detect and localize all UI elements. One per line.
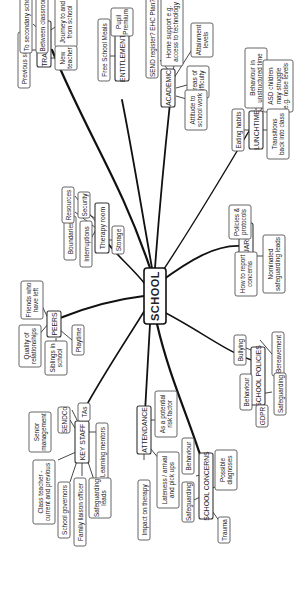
node-playtime: Playtime (72, 325, 84, 355)
node-nominated-leads: Nominatedsafeguarding leads (263, 235, 285, 293)
node-label: Behaviour (185, 441, 192, 471)
node-label: Boundaries (67, 222, 74, 254)
node-label: ASD children (267, 67, 274, 105)
node-label: unstructured time (256, 53, 263, 103)
node-label: Attitude to (189, 95, 196, 124)
node-potential-risk: As a potentialrisk factor (155, 391, 177, 437)
node-label: ACADEMIC (165, 70, 172, 106)
node-resources: Resources (62, 187, 74, 223)
node-trauma: Trauma (218, 517, 230, 543)
node-attainment: Attainmentlevels (191, 23, 213, 57)
node-storage: Storage (112, 226, 124, 254)
node-siblings: Siblings inschool (45, 341, 67, 375)
node-security: Security (78, 192, 90, 218)
node-home-support: Home support e.g.access to technology (161, 0, 183, 66)
node-label: SENDCo (61, 407, 68, 433)
node-label: Trauma (221, 519, 228, 541)
node-label: Behaviour in (249, 60, 256, 96)
node-asd-children: ASD childrenmay strugglee.g. noise level… (263, 60, 293, 112)
node-label: back into class (278, 113, 285, 155)
node-gdpr: GDPR (256, 405, 268, 427)
node-sendco: SENDCo (58, 407, 70, 433)
node-safeguarding-concern: Safeguarding (182, 482, 194, 522)
node-policies-protocols: Policies &protocols (229, 205, 251, 239)
node-bullying: Bullying (234, 335, 246, 365)
node-behaviour-policy: Behaviour (240, 374, 252, 410)
node-label: Nominated (267, 248, 274, 279)
node-label: Friends who (25, 282, 32, 317)
node-label: School governors (61, 485, 69, 535)
node-label: SCHOOL (149, 271, 161, 321)
node-label: Behaviour (243, 377, 250, 407)
node-label: PEERS (51, 312, 58, 336)
node-label: diagnoses (226, 455, 234, 484)
node-label: To secondary school (23, 0, 31, 51)
node-attitude: Attitude toschool work (185, 90, 207, 130)
node-label: ENTITLEMENTS (119, 30, 126, 82)
node-label: have left (32, 288, 39, 312)
node-label: Class teacher - (37, 471, 44, 514)
node-impact-therapy: Impact on therapy (138, 480, 150, 540)
node-school-concerns: SCHOOL CONCERNS (199, 451, 213, 521)
node-academic: ACADEMIC (161, 69, 175, 107)
node-label: Between classrooms (39, 0, 46, 51)
node-interruptions: Interruptions (80, 221, 92, 267)
node-transitions-back: Transitionsback into class (267, 109, 289, 159)
node-therapy-room: Therapy room (95, 203, 109, 253)
node-label: Learning mentors (99, 427, 107, 477)
node-to-secondary: To secondary school (20, 0, 32, 53)
node-label: Lateness / arrival (161, 456, 168, 505)
node-label: safeguarding leads (274, 237, 282, 291)
node-label: Eating habits (235, 112, 243, 149)
node-label: SCHOOL POLICIES (255, 345, 262, 407)
node-label: risk factor (166, 399, 173, 428)
node-label: Transitions (271, 118, 278, 149)
node-label: concerns (246, 261, 253, 287)
node-label: e.g. noise levels (282, 63, 290, 109)
node-label: Family liaison officer (77, 482, 85, 541)
node-how-to-report: How to reportconcerns (235, 252, 257, 296)
node-family-liaison: Family liaison officer (74, 478, 86, 546)
node-label: levels (202, 32, 209, 48)
node-label: school work (196, 92, 203, 127)
node-label: Possible (219, 457, 226, 482)
node-entitlements: ENTITLEMENTS (115, 30, 129, 82)
node-label: Free School Meals (101, 23, 108, 76)
node-key-staff: KEY STAFF (75, 421, 89, 463)
node-label: SCHOOL CONCERNS (203, 451, 210, 521)
node-bereavement: Bereavement (272, 332, 284, 376)
node-between-classrooms: Between classrooms (36, 0, 48, 53)
node-label: KEY STAFF (79, 424, 86, 460)
node-label: school (56, 349, 63, 367)
node-free-school-meals: Free School Meals (98, 19, 110, 81)
node-safeguarding-policy: Safeguarding (274, 373, 286, 415)
node-label: SEND register? EHC Plan? (149, 0, 157, 77)
node-new-teacher: Newteacher (55, 46, 77, 70)
node-peers: PEERS (47, 311, 61, 337)
node-label: Policies & (233, 207, 240, 236)
node-label: Therapy room (99, 207, 107, 250)
node-label: protocols (240, 209, 248, 235)
node-label: Safeguarding (185, 483, 193, 521)
node-label: current and previous (44, 463, 52, 521)
mind-map-canvas: SCHOOLTRANSITIONSPrevious schoolsTo seco… (0, 0, 308, 592)
node-label: relationships (30, 328, 38, 364)
node-label: leads (100, 490, 107, 505)
node-label: Senior (33, 422, 40, 441)
node-senior-management: Seniormanagement (29, 412, 51, 452)
node-label: Security (81, 193, 89, 217)
node-attendance: ATTENDANCE (137, 406, 151, 454)
node-label: LUNCHTIME (253, 110, 260, 150)
node-behaviour-concern: Behaviour (182, 438, 194, 474)
node-label: Bereavement (275, 335, 282, 373)
node-label: Interruptions (83, 226, 91, 262)
node-label: management (40, 413, 48, 451)
node-tas: TAs (78, 403, 90, 421)
node-label: GDPR (259, 406, 266, 425)
node-quality-relationships: Quality ofrelationships (19, 325, 41, 367)
node-label: Premium (122, 9, 129, 35)
node-label: Bullying (237, 338, 245, 361)
node-journey: Journey to andfrom school (55, 0, 77, 47)
node-label: TAs (81, 407, 88, 418)
node-safeguarding-leads: Safeguardingleads (89, 478, 111, 518)
